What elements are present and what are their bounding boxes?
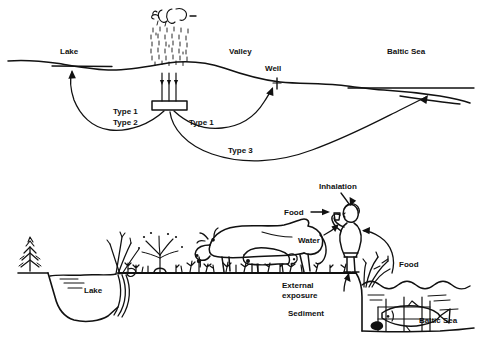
- shore-drop-line: [356, 273, 362, 331]
- label-baltic-sea-top: Baltic Sea: [387, 47, 426, 56]
- label-type1-left: Type 1: [113, 107, 138, 116]
- label-baltic-sea-bottom: Baltic Sea: [419, 316, 458, 325]
- precipitation-icon: [151, 27, 188, 66]
- sediment-icon: [371, 321, 384, 330]
- cow-icon: [195, 219, 326, 272]
- reeds-icon: [363, 252, 390, 287]
- label-external-exposure-line2: exposure: [282, 291, 318, 300]
- sea-wavy-surface: [362, 281, 470, 289]
- label-sediment: Sediment: [288, 309, 324, 318]
- label-well: Well: [265, 64, 281, 73]
- inhalation-arrow: [341, 193, 349, 204]
- label-inhalation: Inhalation: [319, 182, 357, 191]
- label-food-right: Food: [399, 260, 419, 269]
- label-valley: Valley: [229, 47, 252, 56]
- repository-icon: [152, 101, 187, 110]
- flowpath-type3-baltic: [170, 97, 426, 161]
- label-lake-top: Lake: [60, 47, 79, 56]
- label-food-left: Food: [284, 208, 304, 217]
- crop-plants-icon: [125, 259, 346, 272]
- label-lake-bottom: Lake: [84, 286, 103, 295]
- label-type3: Type 3: [228, 146, 253, 155]
- human-figure-icon: [332, 204, 361, 272]
- cloud-icon: [152, 9, 196, 26]
- label-external-exposure-line1: External: [282, 281, 314, 290]
- label-water: Water: [298, 236, 320, 245]
- figure-canvas: Lake Valley Well Baltic Sea Type 1 Type …: [0, 0, 477, 341]
- top-panel-geosphere: Lake Valley Well Baltic Sea Type 1 Type …: [0, 0, 477, 175]
- seabed-slope-line: [400, 96, 460, 104]
- shaft-arrows-icon: [160, 73, 178, 101]
- arrowhead-food-left: [322, 209, 330, 215]
- arrowhead-external-exposure: [344, 273, 351, 282]
- bottom-panel-biosphere: Lake Inhalation Food Water External expo…: [0, 175, 477, 341]
- arrowhead-lake: [68, 70, 76, 79]
- lake-basin-outline: [48, 273, 118, 321]
- fishing-net-icon: [378, 297, 430, 331]
- conifer-tree-icon: [19, 237, 41, 271]
- label-type1-right: Type 1: [189, 118, 214, 127]
- lake-water-line: [52, 66, 112, 67]
- arrowhead-well: [266, 87, 273, 96]
- label-type2-left: Type 2: [113, 118, 138, 127]
- calf-icon: [243, 248, 297, 272]
- arrowhead-food-right: [362, 227, 370, 234]
- lake-water-surface: [50, 274, 116, 276]
